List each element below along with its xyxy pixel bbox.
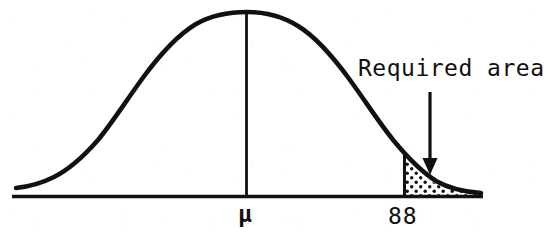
x-value-axis-label: 88 [388, 205, 418, 228]
mean-axis-label: μ [238, 203, 252, 226]
annotation-arrow-icon [423, 92, 438, 175]
required-area-label: Required area [358, 57, 545, 80]
